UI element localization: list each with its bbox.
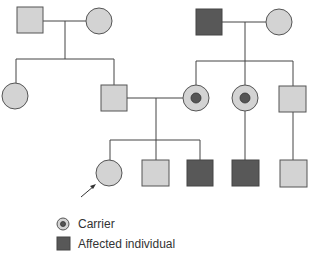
individual-III-3-male-affected [187, 160, 213, 186]
individual-I-4-female-unaffected [266, 9, 292, 35]
legend-item-carrier: Carrier [57, 217, 115, 231]
individual-II-5-male-unaffected [279, 86, 306, 112]
carrier-dot [240, 93, 250, 103]
legend: Carrier Affected individual [57, 217, 175, 251]
individual-III-4-male-affected [232, 160, 259, 186]
individual-III-5-male-unaffected [280, 160, 307, 187]
legend-carrier-dot [61, 222, 66, 227]
legend-label-carrier: Carrier [78, 217, 115, 231]
individual-III-2-male-unaffected [142, 160, 169, 186]
individual-II-2-male-unaffected [101, 85, 127, 111]
individual-II-1-female-unaffected [2, 83, 28, 109]
legend-label-affected: Affected individual [78, 237, 175, 251]
legend-affected-icon [57, 237, 70, 250]
individual-I-2-female-unaffected [86, 8, 112, 34]
individual-I-3-male-affected [196, 9, 222, 35]
individual-III-1-female-proband [96, 160, 122, 186]
proband-arrow-icon [81, 184, 96, 197]
individual-I-1-male-unaffected [17, 7, 43, 33]
carrier-dot [191, 93, 201, 103]
individual-II-3-female-carrier [183, 85, 209, 111]
legend-item-affected: Affected individual [57, 237, 175, 251]
individual-II-4-female-carrier [232, 85, 258, 111]
pedigree-diagram: Carrier Affected individual [0, 0, 309, 260]
